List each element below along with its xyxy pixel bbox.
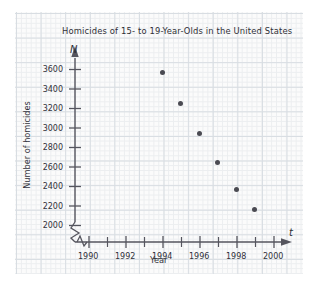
chart-page: Homicides of 15- to 19-Year-Olds in the … <box>0 0 317 290</box>
data-point <box>252 207 257 212</box>
y-tick-label: 2800 <box>33 143 63 152</box>
y-axis-title: Number of homicides <box>22 90 32 200</box>
y-tick-label: 2000 <box>33 221 63 230</box>
x-tick-label: 1992 <box>115 252 135 261</box>
y-tick-label: 3200 <box>33 104 63 113</box>
y-tick-label: 2200 <box>33 202 63 211</box>
y-tick-label: 3400 <box>33 85 63 94</box>
x-axis-break-mark <box>77 236 87 246</box>
x-tick-label: 2000 <box>263 252 283 261</box>
y-tick-label: 3000 <box>33 124 63 133</box>
chart-title: Homicides of 15- to 19-Year-Olds in the … <box>62 26 292 36</box>
data-point <box>160 70 165 75</box>
x-axis-variable-label: t <box>289 227 293 238</box>
y-tick-label: 2400 <box>33 182 63 191</box>
data-point <box>215 160 220 165</box>
y-tick-label: 2600 <box>33 163 63 172</box>
y-axis <box>71 46 78 222</box>
x-tick-label: 1998 <box>226 252 246 261</box>
y-tick-label: 3600 <box>33 65 63 74</box>
x-axis-title: Year <box>150 255 167 265</box>
data-point <box>197 131 202 136</box>
x-tick-label: 1996 <box>189 252 209 261</box>
y-axis-variable-label: N <box>70 44 77 55</box>
data-point <box>234 187 239 192</box>
x-tick-label: 1990 <box>78 252 98 261</box>
